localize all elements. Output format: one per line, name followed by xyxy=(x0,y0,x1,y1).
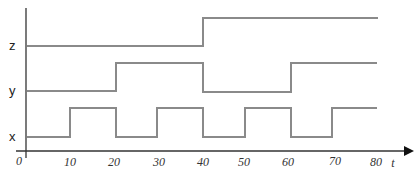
origin-label: 0 xyxy=(16,154,22,169)
signal-y-waveform xyxy=(27,63,377,92)
signal-label-x: x xyxy=(9,129,16,144)
signal-z-waveform xyxy=(27,18,378,46)
signal-label-z: z xyxy=(9,38,16,53)
tick-10: 10 xyxy=(64,155,76,170)
timing-diagram xyxy=(0,0,418,182)
tick-40: 40 xyxy=(197,155,209,170)
tick-50: 50 xyxy=(238,155,250,170)
tick-60: 60 xyxy=(282,155,294,170)
t-axis-label: t xyxy=(391,156,394,171)
tick-80: 80 xyxy=(370,155,382,170)
tick-70: 70 xyxy=(329,154,341,169)
axis-arrow-icon xyxy=(404,146,414,156)
tick-20: 20 xyxy=(108,155,120,170)
signal-x-waveform xyxy=(27,108,377,137)
tick-30: 30 xyxy=(153,155,165,170)
signal-label-y: y xyxy=(9,83,16,98)
